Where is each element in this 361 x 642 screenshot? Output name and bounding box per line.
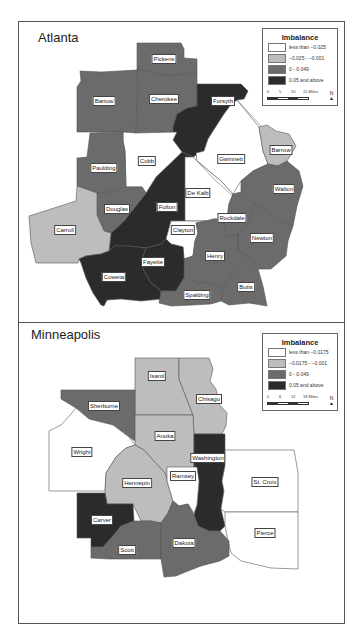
legend-title: Imbalance xyxy=(263,33,337,42)
legend-swatch xyxy=(268,65,286,74)
label-walton: Walton xyxy=(273,184,295,194)
legend-swatch xyxy=(268,370,286,379)
label-clayton: Clayton xyxy=(171,225,195,235)
minneapolis-map-panel: Minneapolis xyxy=(18,322,345,624)
north-arrow-icon: N▲ xyxy=(329,91,334,101)
scale-bar-graphic xyxy=(267,402,309,405)
legend-item: less than −0.025 xyxy=(263,43,337,53)
legend-item: −0.0175 - −0.001 xyxy=(263,359,337,369)
legend-swatch xyxy=(268,54,286,63)
legend-item: −0.025 - −0.001 xyxy=(263,54,337,64)
legend-swatch xyxy=(268,76,286,85)
label-carroll: Carroll xyxy=(54,225,76,235)
label-coweta: Coweta xyxy=(102,272,126,282)
legend-swatch xyxy=(268,381,286,390)
label-pierce: Pierce xyxy=(254,528,275,538)
label-butts: Butts xyxy=(237,282,255,292)
legend-label: −0.0175 - −0.001 xyxy=(289,360,327,366)
minneapolis-legend: Imbalance less than −0.0175 −0.0175 - −0… xyxy=(262,333,338,411)
label-dakota: Dakota xyxy=(172,538,195,548)
legend-item: less than −0.0175 xyxy=(263,348,337,358)
legend-swatch xyxy=(268,359,286,368)
label-paulding: Paulding xyxy=(90,163,117,173)
county-pierce xyxy=(225,512,298,569)
label-rockdale: Rockdale xyxy=(217,213,246,223)
scale-bar-graphic xyxy=(267,97,309,100)
legend-label: 0 - 0.049 xyxy=(289,66,309,72)
label-chisago: Chisago xyxy=(196,394,222,404)
label-sherburne: Sherburne xyxy=(88,401,120,411)
label-forsyth: Forsyth xyxy=(211,96,235,106)
legend-label: 0 - 0.049 xyxy=(289,371,309,377)
legend-item: 0 - 0.049 xyxy=(263,65,337,75)
label-pickens: Pickens xyxy=(151,54,176,64)
legend-label: 0.05 and above xyxy=(289,382,323,388)
scale-bar: 0 6 12 18 Miles xyxy=(267,394,325,406)
label-dekalb: De Kalb xyxy=(185,188,210,198)
label-isanti: Isanti xyxy=(148,371,166,381)
legend-item: 0.05 and above xyxy=(263,381,337,391)
legend-label: 0.05 and above xyxy=(289,77,323,83)
scale-bar: 0 5 10 15 Miles xyxy=(267,89,325,101)
legend-item: 0 - 0.049 xyxy=(263,370,337,380)
legend-label: less than −0.025 xyxy=(289,44,326,50)
legend-swatch xyxy=(268,348,286,357)
label-anoka: Anoka xyxy=(154,431,175,441)
legend-swatch xyxy=(268,43,286,52)
legend-title: Imbalance xyxy=(263,338,337,347)
label-henry: Henry xyxy=(205,251,225,261)
label-scott: Scott xyxy=(118,545,136,555)
north-arrow-icon: N▲ xyxy=(329,396,334,406)
label-fulton: Fulton xyxy=(157,202,178,212)
label-barrow: Barrow xyxy=(269,145,292,155)
label-douglas: Douglas xyxy=(104,204,130,214)
label-wright: Wright xyxy=(71,447,92,457)
label-cobb: Cobb xyxy=(138,156,156,166)
atlanta-map-panel: Atlanta xyxy=(18,21,345,323)
label-ramsey: Ramsey xyxy=(170,471,196,481)
label-spalding: Spalding xyxy=(183,290,210,300)
label-gwinnett: Gwinnett xyxy=(217,154,245,164)
label-cherokee: Cherokee xyxy=(149,94,179,104)
label-stcroix: St. Croix xyxy=(251,477,278,487)
label-newton: Newton xyxy=(250,233,274,243)
label-fayette: Fayette xyxy=(141,257,165,267)
legend-item: 0.05 and above xyxy=(263,76,337,86)
atlanta-legend: Imbalance less than −0.025 −0.025 - −0.0… xyxy=(262,28,338,106)
label-hennepin: Hennepin xyxy=(122,478,152,488)
label-bartow: Bartow xyxy=(93,96,116,106)
legend-label: −0.025 - −0.001 xyxy=(289,55,324,61)
label-carver: Carver xyxy=(91,515,113,525)
legend-label: less than −0.0175 xyxy=(289,349,329,355)
label-washington: Washington xyxy=(190,453,225,463)
